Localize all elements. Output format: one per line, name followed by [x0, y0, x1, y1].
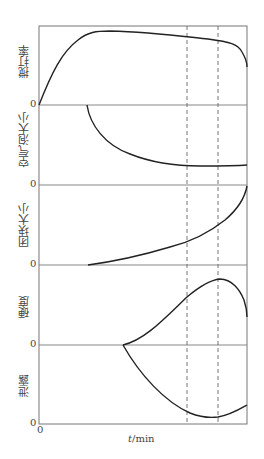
panel4-ylabel: 硬度	[17, 296, 33, 318]
panel4-curve	[123, 279, 247, 345]
panel4-zero-label: 0	[30, 338, 36, 349]
multi-panel-line-chart	[0, 0, 264, 459]
panel2-ylabel: 空气泡大小	[17, 112, 33, 167]
x-axis-label: t/min	[128, 433, 155, 444]
panel5-zero-label: 0	[30, 417, 36, 428]
x-origin-label: 0	[37, 424, 43, 435]
panel5-curve	[123, 345, 247, 417]
panel2-curve	[87, 105, 247, 166]
panel1-ylabel: 搅打率	[17, 45, 33, 78]
panel1-zero-label: 0	[30, 98, 36, 109]
panel2-zero-label: 0	[30, 178, 36, 189]
panel3-curve	[88, 186, 247, 265]
panel1-curve	[39, 31, 247, 105]
panel5-ylabel: 泄露	[17, 375, 33, 397]
panel3-zero-label: 0	[30, 258, 36, 269]
x-axis-unit: /min	[132, 433, 155, 444]
panel3-ylabel: 团块大小	[17, 203, 33, 247]
plot-frame	[39, 26, 247, 424]
